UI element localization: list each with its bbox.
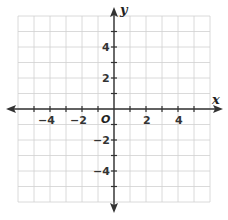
origin-label: O — [101, 113, 110, 126]
coordinate-plane: x y O −4 −2 2 4 4 2 −2 −4 — [0, 0, 228, 220]
y-tick-label-neg4: −4 — [93, 165, 110, 178]
y-tick-label-2: 2 — [102, 72, 110, 85]
x-tick-label-4: 4 — [175, 114, 183, 127]
y-tick-label-neg2: −2 — [93, 134, 110, 147]
x-axis-label: x — [211, 92, 220, 107]
y-axis — [110, 7, 118, 213]
x-tick-label-2: 2 — [143, 114, 151, 127]
y-tick-label-4: 4 — [102, 41, 110, 54]
x-tick-label-neg4: −4 — [38, 114, 55, 127]
y-axis-label: y — [119, 2, 129, 17]
x-tick-label-neg2: −2 — [70, 114, 87, 127]
